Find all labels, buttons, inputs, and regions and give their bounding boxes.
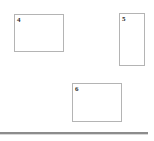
region-box-5[interactable]: 5: [119, 13, 145, 66]
region-label-4: 4: [17, 16, 21, 24]
region-label-6: 6: [75, 85, 79, 93]
annotation-canvas: 4 5 6: [0, 0, 154, 141]
bottom-divider: [0, 132, 148, 134]
region-box-4[interactable]: 4: [14, 14, 64, 52]
region-label-5: 5: [122, 15, 126, 23]
bottom-divider-highlight: [0, 134, 148, 135]
region-box-6[interactable]: 6: [72, 83, 122, 122]
